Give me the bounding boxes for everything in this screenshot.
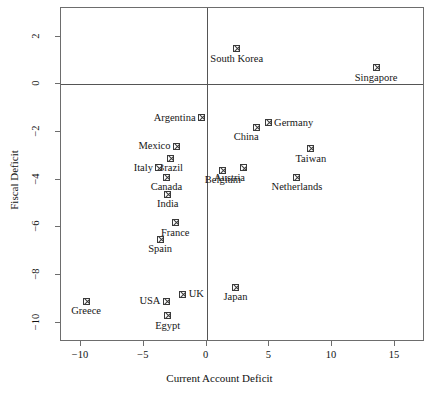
data-point-label: Mexico <box>138 140 170 151</box>
crossed-square-marker-icon <box>265 119 272 126</box>
x-axis-tick <box>331 341 332 346</box>
x-axis-tick <box>394 341 395 346</box>
y-axis-tick-label: −2 <box>30 118 41 144</box>
y-axis-tick-label: −6 <box>30 213 41 239</box>
data-point-label: Singapore <box>355 72 398 83</box>
crossed-square-marker-icon <box>163 298 170 305</box>
crossed-square-marker-icon <box>232 284 239 291</box>
data-point-label: France <box>161 227 190 238</box>
data-point-label: India <box>157 198 179 209</box>
y-axis-tick <box>55 274 60 275</box>
data-point-label: UK <box>189 288 204 299</box>
y-axis-tick <box>55 36 60 37</box>
y-axis-tick <box>55 83 60 84</box>
y-axis-tick-label: 2 <box>30 23 41 49</box>
y-axis-tick <box>55 179 60 180</box>
crossed-square-marker-icon <box>155 164 162 171</box>
y-axis-tick-label: −10 <box>30 309 41 335</box>
crossed-square-marker-icon <box>167 155 174 162</box>
crossed-square-marker-icon <box>233 45 240 52</box>
crossed-square-marker-icon <box>157 236 164 243</box>
x-axis-tick <box>143 341 144 346</box>
y-axis-tick-label: −4 <box>30 166 41 192</box>
data-point-label: USA <box>139 295 160 306</box>
crossed-square-marker-icon <box>253 124 260 131</box>
y-axis-tick <box>55 226 60 227</box>
zero-horizontal-reference-line <box>61 84 423 85</box>
data-point-label: China <box>234 131 259 142</box>
x-axis-tick-label: 10 <box>326 349 337 360</box>
x-axis-tick <box>268 341 269 346</box>
data-point-label: Italy <box>134 162 153 173</box>
crossed-square-marker-icon <box>307 145 314 152</box>
crossed-square-marker-icon <box>173 143 180 150</box>
x-axis-tick-label: 0 <box>203 349 208 360</box>
crossed-square-marker-icon <box>164 312 171 319</box>
x-axis-tick-label: 5 <box>266 349 271 360</box>
data-point-label: Egypt <box>155 320 180 331</box>
data-point-label: Taiwan <box>295 153 326 164</box>
x-axis-tick <box>206 341 207 346</box>
crossed-square-marker-icon <box>83 298 90 305</box>
data-point-label: Japan <box>224 291 248 302</box>
crossed-square-marker-icon <box>164 191 171 198</box>
crossed-square-marker-icon <box>198 114 205 121</box>
x-axis-tick <box>80 341 81 346</box>
y-axis-tick-label: −8 <box>30 261 41 287</box>
crossed-square-marker-icon <box>373 64 380 71</box>
data-point-label: Netherlands <box>272 181 323 192</box>
data-point-label: South Korea <box>210 53 263 64</box>
y-axis-title: Fiscal Deficit <box>8 120 20 240</box>
crossed-square-marker-icon <box>240 164 247 171</box>
x-axis-tick-label: −10 <box>72 349 88 360</box>
crossed-square-marker-icon <box>163 174 170 181</box>
data-point-label: Belgium <box>205 174 241 185</box>
plot-area: South KoreaSingaporeArgentinaGermanyChin… <box>60 7 424 341</box>
y-axis-tick <box>55 131 60 132</box>
x-axis-tick-label: 15 <box>389 349 400 360</box>
data-point-label: Spain <box>148 243 172 254</box>
scatter-chart: South KoreaSingaporeArgentinaGermanyChin… <box>0 0 439 395</box>
crossed-square-marker-icon <box>172 219 179 226</box>
x-axis-title: Current Account Deficit <box>0 372 439 384</box>
crossed-square-marker-icon <box>293 174 300 181</box>
crossed-square-marker-icon <box>179 291 186 298</box>
data-point-label: Germany <box>274 117 313 128</box>
data-point-label: Argentina <box>154 112 196 123</box>
y-axis-tick <box>55 322 60 323</box>
data-point-label: Greece <box>71 305 101 316</box>
x-axis-tick-label: −5 <box>137 349 148 360</box>
crossed-square-marker-icon <box>219 167 226 174</box>
y-axis-tick-label: 0 <box>30 70 41 96</box>
